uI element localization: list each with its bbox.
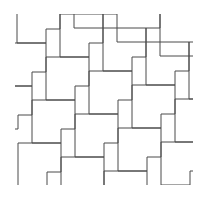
tessellation-diagram: Notched-square tessellation A monohedral…: [0, 0, 209, 199]
figure-root: Notched-square tessellation A monohedral…: [0, 0, 209, 199]
